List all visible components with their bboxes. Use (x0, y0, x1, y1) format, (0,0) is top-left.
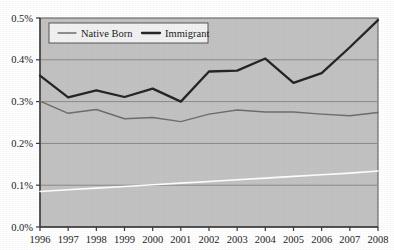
y-axis-tick-label: 0.3% (11, 96, 33, 107)
x-axis-tick-label: 2001 (170, 234, 191, 245)
y-axis-tick-label: 0.5% (11, 13, 33, 24)
x-axis-tick-label: 1996 (30, 234, 51, 245)
x-axis-tick-labels: 1996199719981999200020012002200320042005… (30, 234, 389, 245)
line-chart: 0.0%0.1%0.2%0.3%0.4%0.5% 199619971998199… (0, 0, 394, 250)
x-axis-tick-label: 2004 (255, 234, 277, 245)
plot-area-background (40, 18, 378, 227)
x-axis-tick-label: 1999 (114, 234, 135, 245)
y-axis-tick-label: 0.0% (11, 222, 33, 233)
x-axis-tick-label: 1998 (86, 234, 107, 245)
legend-label-immigrant: Immigrant (165, 28, 209, 39)
chart-figure: 0.0%0.1%0.2%0.3%0.4%0.5% 199619971998199… (0, 0, 394, 250)
chart-legend: Native BornImmigrant (49, 23, 209, 43)
legend-label-native-born: Native Born (81, 28, 133, 39)
x-axis-tick-label: 1997 (58, 234, 79, 245)
x-axis-tick-label: 2000 (142, 234, 163, 245)
x-axis-tick-label: 2008 (368, 234, 389, 245)
x-axis-tick-label: 2002 (199, 234, 220, 245)
y-axis-tick-label: 0.1% (11, 180, 33, 191)
y-axis-tick-labels: 0.0%0.1%0.2%0.3%0.4%0.5% (11, 13, 33, 233)
y-axis-tick-label: 0.2% (11, 138, 33, 149)
x-axis-tick-label: 2006 (311, 234, 332, 245)
x-axis-tick-label: 2003 (227, 234, 248, 245)
x-axis-tick-label: 2007 (339, 234, 360, 245)
x-axis-tick-label: 2005 (283, 234, 304, 245)
y-axis-tick-label: 0.4% (11, 54, 33, 65)
